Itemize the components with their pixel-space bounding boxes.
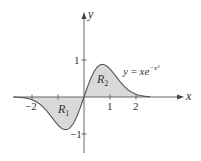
x-tick-label-neg2: −2 <box>25 100 37 112</box>
y-tick-label-1: 1 <box>74 54 80 66</box>
x-tick-label-2: 2 <box>133 100 139 112</box>
y-axis-arrow-icon <box>82 12 87 19</box>
y-axis-label: y <box>87 7 94 21</box>
x-axis-arrow-icon <box>177 95 184 100</box>
y-tick-label-neg1: −1 <box>70 128 82 140</box>
x-tick-label-1: 1 <box>107 100 113 112</box>
plot-svg: −2 1 2 1 −1 x y R1 R2 y = xe−x² <box>0 0 201 161</box>
function-label: y = xe−x² <box>122 64 160 77</box>
x-axis-label: x <box>185 89 192 103</box>
figure: −2 1 2 1 −1 x y R1 R2 y = xe−x² <box>0 0 201 161</box>
